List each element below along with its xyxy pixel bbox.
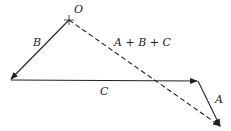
label-sum: A + B + C bbox=[113, 36, 171, 49]
vector-diagram: O B C A A + B + C bbox=[0, 0, 231, 131]
label-origin: O bbox=[74, 3, 83, 16]
label-c: C bbox=[100, 85, 109, 98]
vector-c bbox=[11, 80, 197, 81]
vector-b bbox=[11, 20, 69, 79]
label-b: B bbox=[32, 36, 41, 49]
label-a: A bbox=[214, 93, 223, 106]
